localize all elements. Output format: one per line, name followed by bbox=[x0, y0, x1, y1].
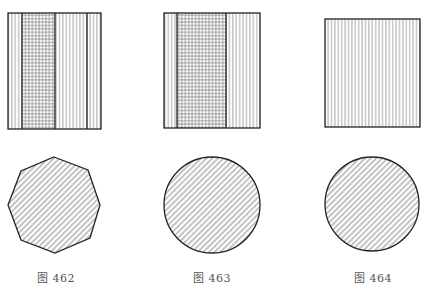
section-octagon-462 bbox=[8, 157, 100, 253]
hatch-band bbox=[164, 13, 177, 128]
figure-canvas bbox=[0, 0, 429, 289]
hatch-band bbox=[177, 13, 226, 128]
top-view-463 bbox=[164, 13, 260, 128]
hatch-band bbox=[22, 13, 55, 129]
section-circle-463 bbox=[164, 157, 260, 253]
hatch-band bbox=[325, 19, 420, 127]
section-circle-464 bbox=[325, 157, 419, 251]
figure-caption-464: 图 464 bbox=[354, 269, 392, 285]
hatch-band bbox=[87, 13, 101, 129]
figure-caption-462: 图 462 bbox=[37, 269, 75, 285]
top-view-464 bbox=[325, 19, 420, 127]
top-view-462 bbox=[8, 13, 101, 129]
hatch-band bbox=[226, 13, 260, 128]
figure-caption-463: 图 463 bbox=[193, 269, 231, 285]
hatch-band bbox=[8, 13, 22, 129]
hatch-band bbox=[55, 13, 87, 129]
